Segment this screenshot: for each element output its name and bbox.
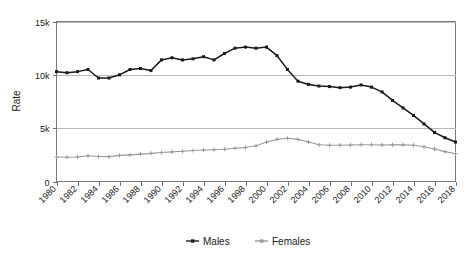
data-point-marker xyxy=(255,47,258,50)
data-point-marker xyxy=(307,140,311,144)
data-point-marker xyxy=(286,136,290,140)
data-point-marker xyxy=(170,150,174,154)
data-point-marker xyxy=(118,73,121,76)
y-tick-label: 5k xyxy=(40,124,50,134)
series-line xyxy=(57,47,456,142)
data-point-marker xyxy=(160,150,164,154)
data-point-marker xyxy=(87,68,90,71)
data-point-marker xyxy=(307,83,310,86)
data-point-marker xyxy=(412,114,415,117)
data-point-marker xyxy=(244,146,248,150)
data-point-marker xyxy=(244,46,247,49)
y-axis-title: Rate xyxy=(11,90,22,112)
data-point-marker xyxy=(65,155,69,159)
data-point-marker xyxy=(296,137,300,141)
x-tick-label: 2002 xyxy=(268,184,289,205)
data-point-marker xyxy=(149,151,153,155)
x-tick-label: 2006 xyxy=(310,184,331,205)
x-tick-label: 2012 xyxy=(373,184,394,205)
data-point-marker xyxy=(76,155,80,159)
y-tick-label: 15k xyxy=(35,18,50,28)
data-point-marker xyxy=(118,153,122,157)
data-point-marker xyxy=(381,90,384,93)
x-tick-label: 1988 xyxy=(121,184,142,205)
x-tick-label: 2000 xyxy=(247,184,268,205)
data-point-marker xyxy=(328,85,331,88)
data-point-marker xyxy=(402,106,405,109)
data-point-marker xyxy=(86,154,90,158)
data-point-marker xyxy=(139,152,143,156)
y-axis-ticks: 05k10k15k xyxy=(35,18,57,188)
data-point-marker xyxy=(139,67,142,70)
data-point-marker xyxy=(66,71,69,74)
data-point-marker xyxy=(234,47,237,50)
data-point-marker xyxy=(297,80,300,83)
data-point-marker xyxy=(328,143,332,147)
data-point-marker xyxy=(97,77,100,80)
data-point-marker xyxy=(171,56,174,59)
data-point-marker xyxy=(454,152,458,156)
data-point-marker xyxy=(213,58,216,61)
x-tick-label: 2010 xyxy=(352,184,373,205)
data-point-marker xyxy=(192,57,195,60)
data-point-marker xyxy=(349,143,353,147)
x-tick-label: 1998 xyxy=(226,184,247,205)
data-series-layer xyxy=(55,46,458,160)
x-tick-label: 2004 xyxy=(289,184,310,205)
data-point-marker xyxy=(212,148,216,152)
data-point-marker xyxy=(150,69,153,72)
data-point-marker xyxy=(360,83,363,86)
x-tick-label: 1990 xyxy=(142,184,163,205)
data-point-marker xyxy=(443,150,447,154)
line-chart: 05k10k15k 198019821984198619881990199219… xyxy=(0,0,467,256)
data-point-marker xyxy=(349,86,352,89)
data-point-marker xyxy=(391,143,395,147)
x-axis-ticks: 1980198219841986198819901992199419961998… xyxy=(37,182,457,206)
data-point-marker xyxy=(55,70,58,73)
data-point-marker xyxy=(108,77,111,80)
data-point-marker xyxy=(129,68,132,71)
data-point-marker xyxy=(160,58,163,61)
data-point-marker xyxy=(422,145,426,149)
data-point-marker xyxy=(202,55,205,58)
legend-label: Males xyxy=(203,236,230,247)
x-tick-label: 2016 xyxy=(415,184,436,205)
chart-svg: 05k10k15k 198019821984198619881990199219… xyxy=(0,0,467,256)
data-point-marker xyxy=(223,52,226,55)
data-point-marker xyxy=(380,143,384,147)
data-point-marker xyxy=(202,148,206,152)
chart-legend: MalesFemales xyxy=(186,236,310,247)
data-point-marker xyxy=(433,147,437,151)
data-point-marker xyxy=(55,155,59,159)
x-tick-label: 1984 xyxy=(79,184,100,205)
x-tick-label: 1996 xyxy=(205,184,226,205)
data-point-marker xyxy=(97,155,101,159)
data-point-marker xyxy=(454,141,457,144)
x-tick-label: 2018 xyxy=(436,184,457,205)
legend-marker-icon xyxy=(191,239,194,242)
data-point-marker xyxy=(265,140,269,144)
data-point-marker xyxy=(286,68,289,71)
data-point-marker xyxy=(338,143,342,147)
data-point-marker xyxy=(339,86,342,89)
legend-item-females[interactable]: Females xyxy=(255,236,310,247)
data-point-marker xyxy=(370,86,373,89)
x-tick-label: 2008 xyxy=(331,184,352,205)
x-tick-label: 2014 xyxy=(394,184,415,205)
data-point-marker xyxy=(223,147,227,151)
x-tick-label: 1992 xyxy=(163,184,184,205)
data-point-marker xyxy=(444,136,447,139)
legend-item-males[interactable]: Males xyxy=(186,236,230,247)
data-point-marker xyxy=(265,46,268,49)
legend-label: Females xyxy=(272,236,310,247)
x-tick-label: 1986 xyxy=(100,184,121,205)
data-point-marker xyxy=(181,149,185,153)
plot-area-frame xyxy=(57,22,456,182)
data-point-marker xyxy=(76,70,79,73)
data-point-marker xyxy=(423,122,426,125)
data-point-marker xyxy=(401,143,405,147)
series-females xyxy=(55,136,458,159)
data-point-marker xyxy=(181,58,184,61)
data-point-marker xyxy=(275,137,279,141)
legend-marker-icon xyxy=(260,239,263,242)
